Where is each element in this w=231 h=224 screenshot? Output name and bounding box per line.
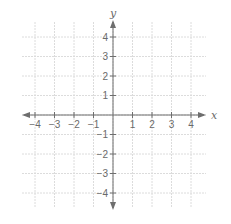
- x-tick-label: −3: [49, 119, 61, 130]
- x-tick-label: 4: [188, 119, 194, 130]
- y-tick-label: 1: [102, 90, 108, 101]
- y-tick-label: −3: [97, 168, 109, 179]
- y-tick-label: 2: [102, 71, 108, 82]
- x-tick-label: 3: [169, 119, 175, 130]
- x-tick-label: −2: [68, 119, 80, 130]
- x-tick-label: −4: [29, 119, 41, 130]
- y-axis-down-arrow-icon: [110, 202, 116, 210]
- y-tick-label: 4: [102, 32, 108, 43]
- x-axis-left-arrow-icon: [22, 112, 30, 118]
- y-tick-label: −4: [97, 188, 109, 199]
- coordinate-plane: −4−3−2−112344321−1−2−3−4 x y: [0, 0, 231, 224]
- x-tick-label: 1: [130, 119, 136, 130]
- x-axis-right-arrow-icon: [198, 112, 206, 118]
- axes: [22, 20, 206, 210]
- y-tick-label: 3: [102, 51, 108, 62]
- x-tick-label: 2: [149, 119, 155, 130]
- y-tick-label: −1: [97, 129, 109, 140]
- y-tick-label: −2: [97, 149, 109, 160]
- y-axis-up-arrow-icon: [110, 20, 116, 28]
- x-axis-label: x: [211, 109, 218, 122]
- y-axis-label: y: [109, 7, 117, 20]
